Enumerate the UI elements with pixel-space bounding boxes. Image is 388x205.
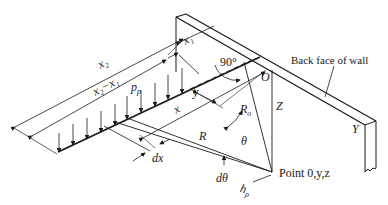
label-point: Point 0,y,z	[279, 167, 330, 179]
dx-arrow	[133, 153, 145, 161]
r-line	[115, 122, 272, 172]
label-pp: pp	[131, 81, 141, 96]
wall	[176, 14, 376, 172]
label-dtheta: dθ	[216, 172, 228, 184]
label-Z: Z	[276, 100, 283, 112]
label-Y: Y	[352, 123, 359, 135]
label-y: y	[193, 86, 198, 98]
back-face-leader	[325, 66, 334, 97]
label-back-face: Back face of wall	[291, 55, 368, 66]
dx-leader-1	[104, 126, 150, 151]
label-R: R	[199, 130, 206, 142]
label-dx: dx	[152, 152, 163, 164]
label-angle-90: 90°	[220, 56, 237, 68]
dx-leader-2	[140, 135, 155, 148]
dx-arrow-2	[160, 139, 170, 144]
label-R0: Ro	[240, 103, 251, 118]
hp-leader	[253, 175, 271, 182]
r-line-2	[127, 118, 272, 172]
label-O: O	[261, 71, 270, 83]
label-theta: θ	[241, 135, 247, 147]
